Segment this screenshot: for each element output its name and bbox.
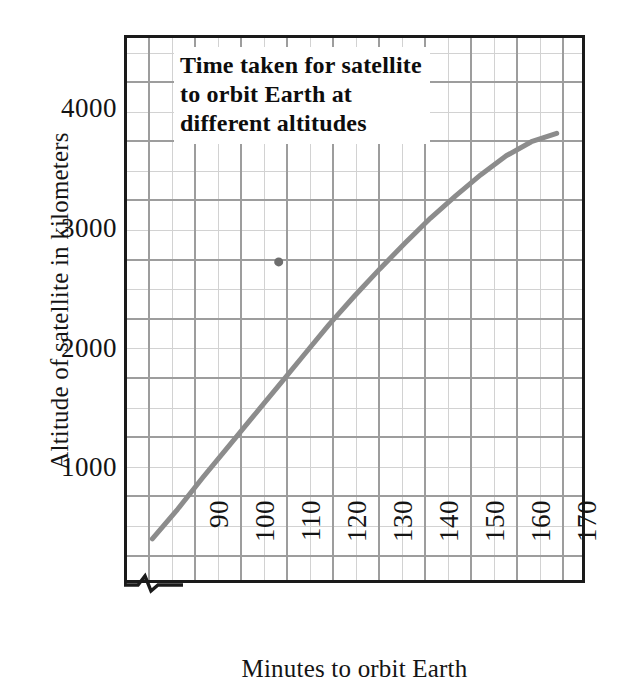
x-tick-label-90: 90: [206, 500, 233, 590]
x-tick-label-150: 150: [482, 500, 509, 590]
chart-figure: Altitude of satellite in kilometers 4000…: [0, 0, 620, 698]
x-tick-label-160: 160: [528, 500, 555, 590]
x-tick-label-group: 90 100 110 120 130 140 150 160 170: [0, 0, 620, 698]
x-tick-label-110: 110: [298, 500, 325, 590]
x-tick-label-120: 120: [344, 500, 371, 590]
x-tick-label-170: 170: [574, 500, 601, 590]
x-tick-label-100: 100: [252, 500, 279, 590]
x-tick-label-130: 130: [390, 500, 417, 590]
x-axis-title: Minutes to orbit Earth: [124, 655, 585, 683]
x-tick-label-140: 140: [436, 500, 463, 590]
